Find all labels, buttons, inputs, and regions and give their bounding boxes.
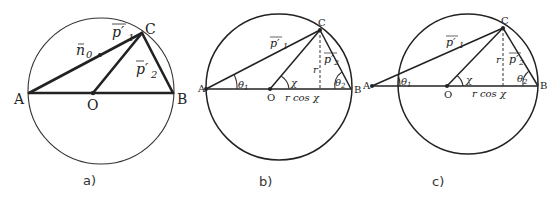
svg-text:0: 0: [86, 49, 93, 60]
angle-theta1-label: θ 1: [401, 76, 411, 89]
line-OC: [93, 33, 142, 93]
line-AC: [29, 33, 142, 93]
caption-c: c): [432, 174, 444, 189]
caption-a: a): [83, 173, 96, 188]
vector-n0-label: n 0: [76, 42, 93, 60]
vector-p1-label: p′ 1: [270, 37, 288, 51]
svg-text:2: 2: [522, 78, 528, 86]
point-O: [268, 87, 272, 91]
svg-text:p′: p′: [446, 36, 456, 49]
label-B: B: [540, 80, 547, 91]
svg-text:p′: p′: [112, 24, 125, 40]
angle-chi-arc: [457, 76, 463, 87]
angle-theta1-label: θ 1: [238, 79, 248, 92]
label-A: A: [13, 91, 25, 107]
label-B: B: [177, 91, 187, 107]
svg-text:2: 2: [150, 69, 157, 80]
figure-b: A O B C p′ 1 p′ 2 r θ 1 χ θ 2 r cos χ b): [197, 14, 361, 189]
label-r: r: [313, 64, 319, 75]
figure-c: A O B C p′ 1 p′ 2 r θ 1 χ θ 2 r cos χ c): [362, 14, 547, 189]
svg-text:2: 2: [518, 58, 524, 67]
label-rcos-chi: r cos χ: [285, 92, 320, 103]
point-C: [501, 26, 505, 30]
svg-text:1: 1: [283, 42, 288, 51]
svg-text:p′: p′: [136, 61, 149, 77]
label-C: C: [145, 21, 156, 37]
label-O: O: [87, 97, 98, 113]
svg-text:n: n: [76, 42, 85, 58]
caption-b: b): [259, 174, 272, 189]
svg-text:p′: p′: [270, 37, 280, 50]
angle-theta1-arc: [234, 75, 237, 90]
figure-a: A O B C n 0 p′ 1 p′ 2 a): [13, 18, 187, 188]
point-O: [91, 91, 95, 95]
svg-text:p′: p′: [509, 53, 519, 66]
svg-text:1: 1: [128, 32, 134, 43]
vector-p1-label: p′ 1: [446, 36, 464, 50]
svg-text:1: 1: [244, 84, 248, 92]
svg-text:1: 1: [459, 41, 464, 50]
label-C: C: [318, 17, 326, 28]
point-A: [370, 84, 374, 88]
angle-theta2-label: θ 2: [335, 77, 346, 90]
label-rcos-chi: r cos χ: [472, 88, 507, 99]
svg-text:p′: p′: [324, 53, 334, 66]
point-C: [318, 28, 322, 32]
label-O: O: [267, 92, 275, 103]
label-r: r: [496, 54, 502, 65]
label-C: C: [501, 15, 509, 26]
angle-theta2-label: θ 2: [517, 73, 528, 86]
svg-text:2: 2: [333, 58, 339, 67]
svg-text:2: 2: [340, 82, 346, 90]
line-AC: [372, 28, 503, 86]
vector-p1-label: p′ 1: [112, 24, 134, 43]
point-n0: [98, 53, 102, 57]
vector-p2-label: p′ 2: [136, 61, 157, 80]
vector-p2-label: p′ 2: [509, 53, 524, 67]
label-B: B: [354, 84, 361, 95]
label-A: A: [362, 80, 371, 91]
label-A: A: [197, 83, 206, 94]
label-O: O: [444, 89, 452, 100]
svg-text:1: 1: [407, 81, 411, 89]
angle-chi-arc: [281, 76, 289, 89]
angle-chi-label: χ: [290, 77, 298, 88]
point-O: [445, 84, 449, 88]
angle-chi-label: χ: [465, 74, 473, 85]
circle-b: [206, 14, 352, 160]
circle-a: [28, 18, 174, 164]
line-AC: [206, 30, 320, 89]
vector-p2-label: p′ 2: [324, 53, 339, 67]
